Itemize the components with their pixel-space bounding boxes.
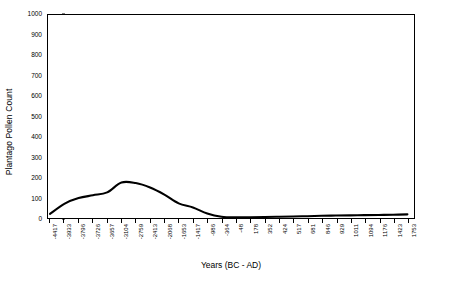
x-axis-tick-label: 1011 xyxy=(353,224,359,237)
y-axis-title-label: Plantago Pollen Count xyxy=(4,89,14,176)
x-axis-tick-label: 1094 xyxy=(368,224,374,237)
x-axis-tick-label: -3726 xyxy=(95,224,101,239)
x-axis-tick-label: 424 xyxy=(282,224,288,234)
x-axis-tick-mark xyxy=(365,219,366,223)
x-axis-tick-mark xyxy=(380,219,381,223)
data-line-series xyxy=(48,15,414,218)
x-axis-tick-label: 517 xyxy=(296,224,302,234)
x-axis-tick-label: -48 xyxy=(238,224,244,233)
x-axis-tick-mark xyxy=(308,219,309,223)
x-axis-tick-label: -1417 xyxy=(195,224,201,239)
x-axis-tick-mark xyxy=(193,219,194,223)
x-axis-tick-label: -3933 xyxy=(66,224,72,239)
x-axis-title: Years (BC - AD) xyxy=(47,260,415,270)
x-axis-tick-label: -2759 xyxy=(138,224,144,239)
x-axis-tick-label: -1653 xyxy=(181,224,187,239)
x-axis-tick-label: 681 xyxy=(310,224,316,234)
y-axis-tick-label: 900 xyxy=(31,31,42,38)
y-axis-tick-label: 400 xyxy=(31,134,42,141)
x-axis-tick-mark xyxy=(49,219,50,223)
x-axis-tick-label: -364 xyxy=(224,224,230,236)
x-axis-tick-mark xyxy=(351,219,352,223)
y-axis-tick-label: 1000 xyxy=(28,11,42,18)
x-axis-tick-mark xyxy=(408,219,409,223)
x-axis-tick-label: 352 xyxy=(267,224,273,234)
x-axis-tick-mark xyxy=(164,219,165,223)
y-axis-tick-label: 700 xyxy=(31,72,42,79)
x-axis-tick-label: -2068 xyxy=(167,224,173,239)
x-axis-tick-mark xyxy=(293,219,294,223)
x-axis-tick-label: -3657 xyxy=(109,224,115,239)
x-axis-tick-label: -3104 xyxy=(123,224,129,239)
x-axis-tick-mark xyxy=(265,219,266,223)
x-axis-tick-label: 1176 xyxy=(382,224,388,237)
x-axis-tick-mark xyxy=(337,219,338,223)
y-axis-tick-label: 200 xyxy=(31,175,42,182)
x-axis-tick-label: -3796 xyxy=(80,224,86,239)
y-axis-title: Plantago Pollen Count xyxy=(2,62,16,202)
y-axis-tick-label: 800 xyxy=(31,52,42,59)
y-axis-tick-label: 100 xyxy=(31,195,42,202)
x-axis-tick-mark xyxy=(78,219,79,223)
x-axis-tick-label: -4417 xyxy=(52,224,58,239)
x-axis-tick-label: 929 xyxy=(339,224,345,234)
y-axis-tick-label: 500 xyxy=(31,113,42,120)
x-axis-tick-label: 1423 xyxy=(397,224,403,237)
x-axis-tick-mark xyxy=(222,219,223,223)
x-axis-tick-mark xyxy=(121,219,122,223)
x-axis-tick-mark xyxy=(135,219,136,223)
y-axis-tick-label: 300 xyxy=(31,154,42,161)
y-axis-tick-label: 600 xyxy=(31,93,42,100)
x-axis-tick-label: 846 xyxy=(325,224,331,234)
y-axis-tick-labels: 01002003004005006007008009001000 xyxy=(18,14,44,219)
x-axis-tick-mark xyxy=(150,219,151,223)
pollen-count-line-chart: Plantago Pollen Count 010020030040050060… xyxy=(0,0,451,284)
x-axis-tick-mark xyxy=(322,219,323,223)
x-axis-tick-labels: -4417-3933-3796-3726-3657-3104-2759-2413… xyxy=(47,224,415,258)
x-axis-tick-mark xyxy=(107,219,108,223)
x-axis-tick-mark xyxy=(63,219,64,223)
x-axis-tick-mark xyxy=(394,219,395,223)
plantago-pollen-count-line xyxy=(50,182,407,218)
y-axis-tick-label: 0 xyxy=(38,216,42,223)
x-axis-tick-mark xyxy=(178,219,179,223)
x-axis-tick-mark xyxy=(92,219,93,223)
x-axis-tick-label: -2413 xyxy=(152,224,158,239)
x-axis-tick-label: -986 xyxy=(210,224,216,236)
plot-area xyxy=(47,14,415,219)
x-axis-tick-mark xyxy=(250,219,251,223)
x-axis-tick-mark xyxy=(279,219,280,223)
x-axis-tick-mark xyxy=(236,219,237,223)
x-axis-tick-label: 178 xyxy=(253,224,259,234)
x-axis-tick-label: 1753 xyxy=(411,224,417,237)
x-axis-tick-mark xyxy=(207,219,208,223)
